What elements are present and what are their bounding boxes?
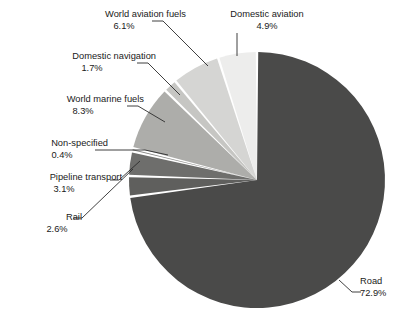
slice-label-road: Road 72.9% [360,276,408,299]
slice-label-world-marine-fuels: World marine fuels 8.3% [22,94,144,117]
slice-label-name: Non-specified [51,138,108,148]
leader-line-road [339,280,352,292]
pie-chart-canvas [0,0,414,325]
slice-label-name: World marine fuels [67,94,144,104]
slice-label-percent: 0.4% [16,150,108,162]
slice-label-rail: Rail 2.6% [32,212,82,235]
slice-label-non-specified: Non-specified 0.4% [16,138,108,161]
slice-label-pipeline-transport: Pipeline transport 3.1% [6,172,122,195]
slice-label-name: Road [360,276,382,286]
slice-label-percent: 72.9% [360,288,408,300]
slice-label-name: Rail [66,212,82,222]
slice-label-name: Domestic navigation [72,51,156,61]
slice-label-world-aviation-fuels: World aviation fuels 6.1% [62,9,186,32]
slice-label-percent: 2.6% [32,224,82,236]
slice-label-percent: 4.9% [212,21,322,33]
slice-label-percent: 8.3% [22,106,144,118]
slice-label-percent: 3.1% [6,184,122,196]
slice-label-name: Pipeline transport [50,172,122,182]
slice-label-name: World aviation fuels [105,9,186,19]
slice-label-percent: 1.7% [28,63,156,75]
slice-label-domestic-navigation: Domestic navigation 1.7% [28,51,156,74]
pie-slice-group [129,52,385,308]
slice-label-percent: 6.1% [62,21,186,33]
slice-label-name: Domestic aviation [230,9,303,19]
pie-chart-figure: World aviation fuels 6.1% Domestic aviat… [0,0,414,325]
slice-label-domestic-aviation: Domestic aviation 4.9% [212,9,322,32]
